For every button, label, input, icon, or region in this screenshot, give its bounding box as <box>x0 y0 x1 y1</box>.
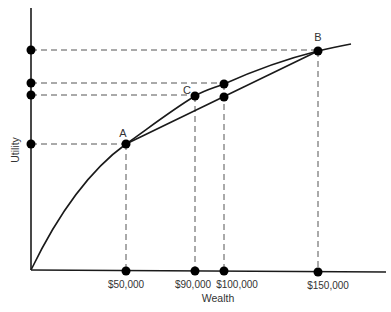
x-axis-title: Wealth <box>202 292 235 304</box>
reference-lines <box>31 50 318 270</box>
point-c <box>191 92 200 101</box>
y-dot-u100 <box>27 79 36 88</box>
label-c: C <box>183 84 191 96</box>
y-dot-uc <box>27 91 36 100</box>
x-tick-100k: $100,000 <box>216 279 258 290</box>
label-a: A <box>119 127 127 139</box>
point-b <box>314 47 323 56</box>
x-dot-150k <box>314 268 323 277</box>
x-tick-150k: $150,000 <box>307 280 349 291</box>
point-chord-100k <box>220 93 229 102</box>
point-a <box>122 140 131 149</box>
label-b: B <box>314 31 321 43</box>
x-dot-50k <box>122 267 131 276</box>
x-tick-90k: $90,000 <box>175 279 212 290</box>
x-axis <box>31 270 386 272</box>
x-dot-100k <box>220 267 229 276</box>
point-curve-100k <box>220 80 229 89</box>
y-dot-ub <box>27 46 36 55</box>
x-tick-50k: $50,000 <box>108 279 145 290</box>
utility-curve <box>31 44 351 270</box>
data-points <box>27 46 323 277</box>
utility-chart: A C B $50,000 $90,000 $100,000 $150,000 … <box>0 0 391 312</box>
y-axis-title: Utility <box>9 136 21 162</box>
chart-canvas: A C B $50,000 $90,000 $100,000 $150,000 … <box>0 0 391 312</box>
y-dot-ua <box>27 140 36 149</box>
x-dot-90k <box>191 267 200 276</box>
